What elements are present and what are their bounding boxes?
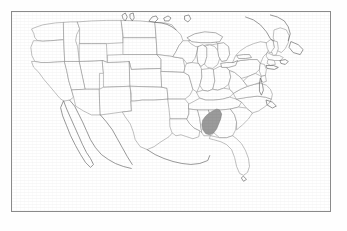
state-colorado	[102, 61, 130, 88]
cape-cod-outline	[280, 60, 288, 65]
long-island-outline	[266, 65, 278, 69]
florida-keys-detail	[242, 176, 247, 181]
map-frame	[11, 11, 331, 212]
state-arkansas	[168, 99, 189, 119]
state-delaware	[261, 75, 266, 82]
gulf-of-mexico-coastline	[147, 150, 210, 165]
state-washington	[32, 22, 64, 41]
state-indiana	[200, 68, 215, 91]
state-florida	[210, 136, 250, 176]
state-wyoming	[80, 44, 108, 63]
state-north-dakota	[121, 20, 156, 37]
state-south-dakota	[123, 38, 157, 55]
state-new-mexico	[99, 86, 131, 115]
lake-of-the-woods	[164, 16, 171, 21]
ontario-lake-nipigon	[185, 15, 191, 22]
manitoba-lake-second	[130, 13, 134, 21]
canada-islands	[149, 16, 158, 22]
state-oklahoma	[130, 86, 168, 101]
state-ohio	[213, 66, 231, 90]
state-montana	[78, 20, 124, 43]
state-oregon	[31, 40, 65, 63]
figure-container	[0, 0, 347, 231]
state-connecticut	[267, 60, 275, 66]
lake-ontario	[237, 55, 252, 59]
lake-superior	[187, 32, 223, 43]
nova-scotia-outline	[289, 42, 303, 55]
state-idaho	[64, 22, 80, 62]
state-arizona	[72, 89, 101, 115]
quebec-outline	[246, 17, 274, 41]
manitoba-lakes	[122, 13, 127, 21]
state-new-jersey	[259, 63, 266, 76]
us-map-svg	[12, 12, 330, 211]
